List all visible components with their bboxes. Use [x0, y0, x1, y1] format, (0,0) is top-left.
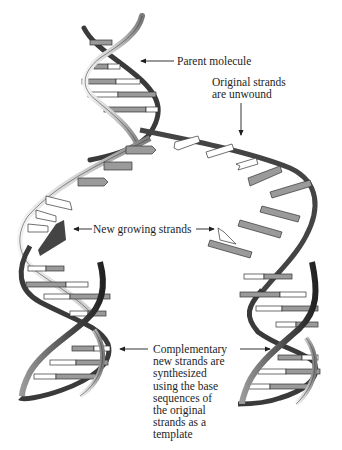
new-growing-strands-label: New growing strands	[93, 223, 191, 235]
original-strands-label: Original strands are unwound	[212, 76, 286, 100]
right-daughter-helix	[238, 262, 320, 404]
exposed-bases-right	[208, 166, 312, 258]
new-bases-left	[28, 196, 72, 232]
new-strand-tip-right	[218, 228, 236, 244]
left-daughter-helix	[20, 246, 110, 399]
complementary-line-8: template	[153, 428, 227, 440]
complementary-line-7: strands as a	[153, 416, 227, 428]
complementary-line-3: synthesized	[153, 367, 227, 379]
complementary-strands-label: Complementary new strands are synthesize…	[153, 343, 227, 441]
upper-original-strand	[140, 130, 315, 292]
complementary-line-1: Complementary	[153, 343, 227, 355]
original-strands-line-1: Original strands	[212, 76, 286, 88]
complementary-line-5: sequences of	[153, 392, 227, 404]
complementary-line-6: the original	[153, 404, 227, 416]
complementary-line-4: using the base	[153, 380, 227, 392]
original-strands-line-2: are unwound	[212, 88, 286, 100]
parent-molecule-label: Parent molecule	[177, 55, 251, 67]
complementary-line-2: new strands are	[153, 355, 227, 367]
